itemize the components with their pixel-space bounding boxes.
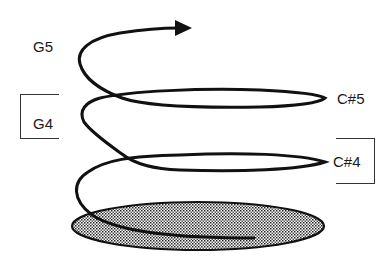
helix-turn-cs5 [79,28,325,107]
pitch-helix-diagram: G5 G4 C#5 C#4 [0,0,392,261]
label-cs5: C#5 [337,91,365,106]
label-cs4: C#4 [333,154,361,169]
arrow-head-icon [175,20,192,36]
label-g4: G4 [33,116,53,131]
base-ellipse [72,202,324,250]
label-g5: G5 [33,39,53,54]
